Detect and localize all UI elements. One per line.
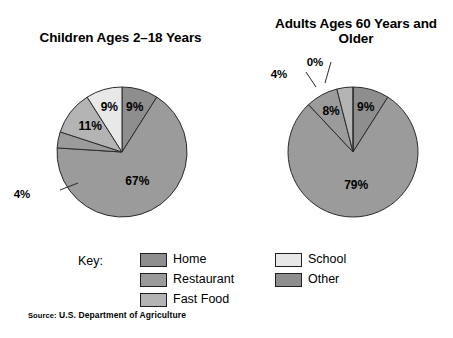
legend-item[interactable]: Restaurant (140, 270, 234, 289)
source-note-text: U.S. Department of Agriculture (59, 310, 186, 320)
legend-swatch-icon (140, 293, 167, 307)
pie-children: 9%67%4%11%9% (14, 87, 187, 217)
legend-item-label: Restaurant (173, 273, 234, 286)
label-leader-line (306, 72, 316, 87)
chart-legend: Key: HomeRestaurantFast Food SchoolOther (78, 250, 378, 306)
legend-item[interactable]: School (275, 250, 346, 269)
pie-slice-label: 9% (101, 100, 119, 114)
source-note: Source: U.S. Department of Agriculture (28, 310, 186, 320)
pie-slice-label: 79% (344, 178, 368, 192)
pie-slice-label: 11% (78, 119, 102, 133)
pie-slice-label: 67% (125, 174, 149, 188)
legend-swatch-icon (275, 253, 302, 267)
legend-item-label: Fast Food (173, 293, 229, 306)
pie-slice-label: 4% (14, 188, 31, 200)
figure-canvas: Children Ages 2–18 Years Adults Ages 60 … (0, 0, 453, 338)
pie-slice-label: 0% (307, 56, 324, 68)
legend-column-left: HomeRestaurantFast Food (140, 250, 234, 310)
legend-item-label: School (308, 253, 346, 266)
pie-slice-label: 9% (357, 100, 375, 114)
legend-item[interactable]: Fast Food (140, 290, 234, 309)
pie-slice-label: 8% (322, 104, 340, 118)
legend-item[interactable]: Other (275, 270, 346, 289)
pie-slice-label: 4% (271, 68, 288, 80)
pie-slice-label: 9% (126, 100, 144, 114)
pie-adults: 9%79%8%4%0% (271, 56, 418, 217)
label-leader-line (325, 62, 331, 83)
legend-key-label: Key: (78, 254, 103, 268)
legend-item-label: Other (308, 273, 339, 286)
legend-swatch-icon (140, 253, 167, 267)
legend-swatch-icon (275, 273, 302, 287)
legend-swatch-icon (140, 273, 167, 287)
source-note-prefix: Source: (28, 311, 57, 320)
legend-column-right: SchoolOther (275, 250, 346, 290)
legend-item-label: Home (173, 253, 206, 266)
legend-item[interactable]: Home (140, 250, 234, 269)
